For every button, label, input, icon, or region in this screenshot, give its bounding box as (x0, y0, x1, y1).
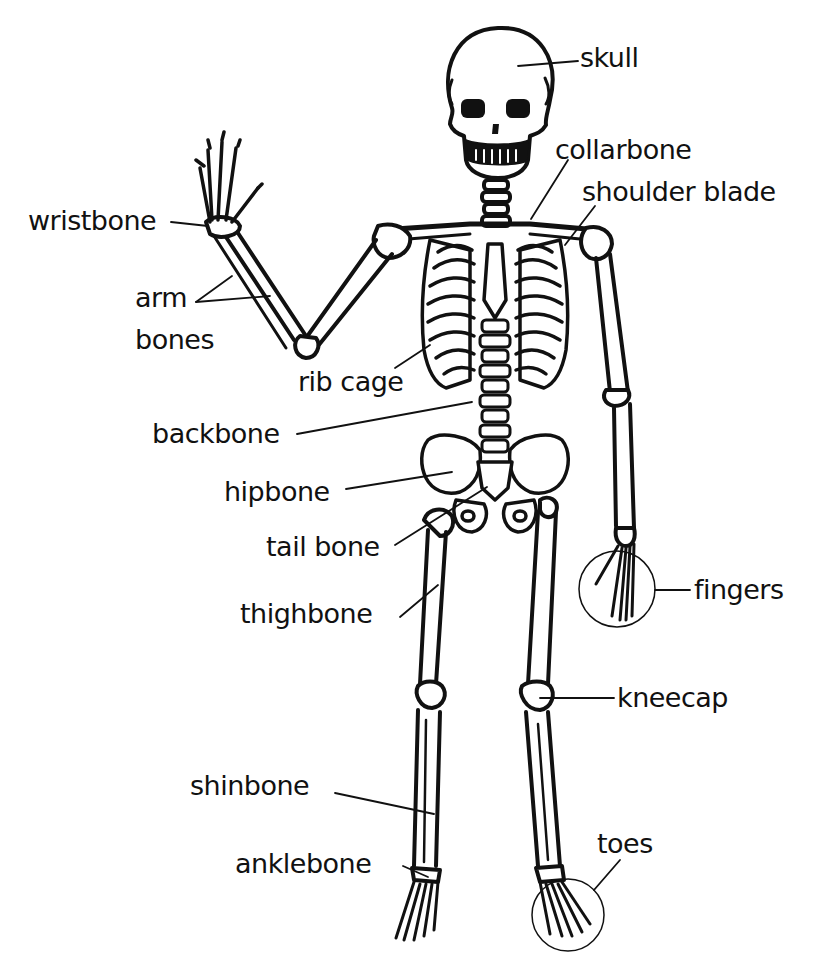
right-leg-drawing (521, 498, 590, 936)
label-rib-cage: rib cage (298, 368, 403, 395)
skeleton-illustration (0, 0, 817, 968)
label-fingers: fingers (694, 576, 784, 603)
label-toes: toes (597, 830, 653, 857)
label-skull: skull (580, 44, 639, 71)
skeleton-diagram: skull collarbone shoulder blade wristbon… (0, 0, 817, 968)
label-tail-bone: tail bone (266, 533, 380, 560)
label-kneecap: kneecap (617, 684, 728, 711)
label-wristbone: wristbone (28, 207, 156, 234)
label-thighbone: thighbone (240, 600, 372, 627)
left-arm-drawing (196, 132, 392, 358)
label-hipbone: hipbone (224, 478, 330, 505)
skull-drawing (448, 28, 553, 178)
label-collarbone: collarbone (555, 136, 691, 163)
label-backbone: backbone (152, 420, 280, 447)
neck-drawing (482, 180, 510, 226)
label-shoulder-blade: shoulder blade (582, 178, 776, 205)
right-arm-drawing (596, 254, 635, 620)
label-bones: bones (135, 326, 214, 353)
spine-drawing (480, 320, 510, 452)
label-anklebone: anklebone (235, 850, 371, 877)
label-shinbone: shinbone (190, 772, 309, 799)
label-arm: arm (135, 284, 187, 311)
